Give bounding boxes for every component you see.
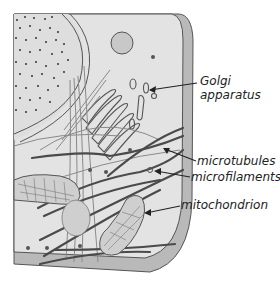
label-golgi-apparatus: Golgi apparatus bbox=[200, 74, 261, 102]
label-line: Golgi bbox=[200, 74, 261, 88]
mitochondrion-left bbox=[14, 175, 80, 205]
label-microfilaments: microfilaments bbox=[191, 170, 280, 184]
label-mitochondrion: mitochondrion bbox=[181, 198, 268, 212]
cell-diagram bbox=[0, 0, 280, 292]
label-line: apparatus bbox=[200, 88, 261, 102]
organelle-oval bbox=[62, 200, 90, 236]
label-microtubules: microtubules bbox=[197, 154, 275, 168]
vesicle bbox=[111, 32, 133, 54]
